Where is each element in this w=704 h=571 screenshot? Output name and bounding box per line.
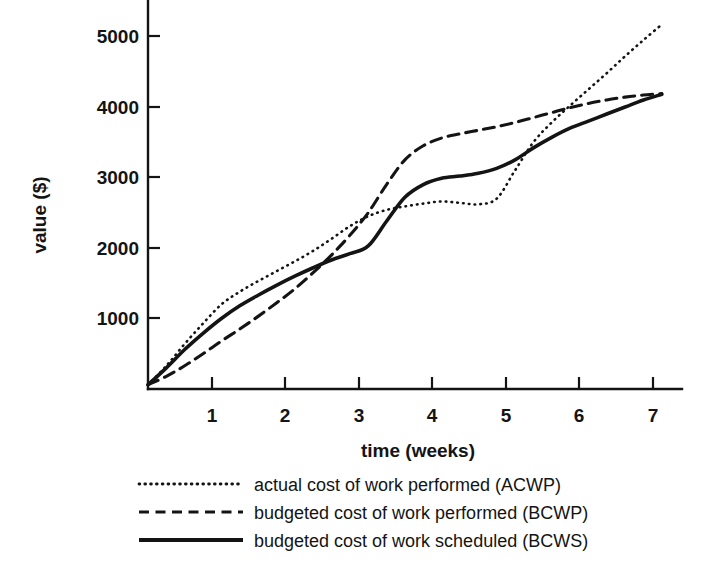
x-tick-label-4: 4 <box>427 405 438 426</box>
chart-canvas: 5000 4000 3000 2000 1000 value ($) 1 2 3… <box>0 0 704 571</box>
x-axis-ticks <box>212 377 653 389</box>
x-tick-label-3: 3 <box>354 405 365 426</box>
legend-label-bcwp: budgeted cost of work performed (BCWP) <box>254 503 588 523</box>
x-tick-label-7: 7 <box>648 405 659 426</box>
x-tick-label-6: 6 <box>574 405 585 426</box>
x-axis-group: 1 2 3 4 5 6 7 time (weeks) <box>148 377 682 461</box>
y-axis-group: 5000 4000 3000 2000 1000 value ($) <box>29 0 160 389</box>
y-tick-label-1000: 1000 <box>97 308 139 329</box>
y-tick-label-4000: 4000 <box>97 97 139 118</box>
legend: actual cost of work performed (ACWP) bud… <box>139 475 588 551</box>
x-axis-title: time (weeks) <box>361 440 475 461</box>
series-group <box>148 25 662 385</box>
legend-label-bcws: budgeted cost of work scheduled (BCWS) <box>254 531 588 551</box>
y-tick-label-3000: 3000 <box>97 167 139 188</box>
y-tick-label-5000: 5000 <box>97 26 139 47</box>
series-line-acwp <box>148 25 662 385</box>
y-axis-ticks <box>148 36 160 318</box>
x-tick-label-2: 2 <box>280 405 291 426</box>
earned-value-chart-figure: 5000 4000 3000 2000 1000 value ($) 1 2 3… <box>0 0 704 571</box>
series-line-bcws <box>148 94 662 384</box>
y-tick-label-2000: 2000 <box>97 238 139 259</box>
legend-label-acwp: actual cost of work performed (ACWP) <box>254 475 561 495</box>
x-tick-label-1: 1 <box>207 405 218 426</box>
x-tick-label-5: 5 <box>501 405 512 426</box>
series-line-bcwp <box>148 94 662 385</box>
y-axis-title: value ($) <box>29 176 50 253</box>
